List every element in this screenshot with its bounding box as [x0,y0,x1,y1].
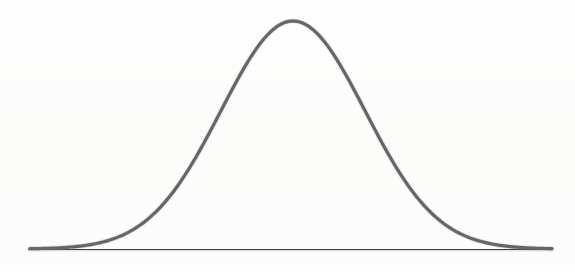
normal-distribution-curve-ghost [30,21,552,249]
normal-distribution-curve [30,21,552,249]
bell-curve-figure: normal [0,0,575,272]
bell-curve-chart [0,0,575,272]
